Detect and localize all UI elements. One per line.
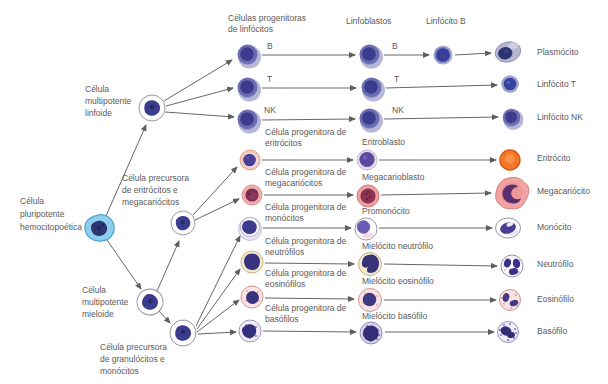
arrow	[166, 88, 233, 106]
label-promonocyte: Promonócito	[362, 206, 410, 217]
letter-b-blast: B	[392, 41, 398, 52]
label-line: linfoide	[85, 107, 131, 119]
arrow	[263, 331, 356, 332]
label-line: Célula	[85, 83, 131, 95]
arrow	[262, 119, 355, 120]
header-line: Células progenitoras	[228, 13, 306, 24]
lymphoblast-b-cell	[360, 45, 384, 69]
col-header-lymphocyte-b: Linfócito B	[426, 16, 466, 27]
monocyte-cell	[496, 218, 521, 238]
arrow	[198, 332, 236, 334]
label-neutrophil-myelocyte: Mielócito neutrófilo	[362, 241, 433, 252]
row-arrows-progenitor-to-blast	[262, 55, 356, 332]
arrow	[265, 263, 354, 264]
lymphoblast-nk-cell	[360, 109, 384, 133]
arrow	[265, 298, 354, 299]
label-lymphocyte-nk: Linfócito NK	[537, 112, 583, 123]
label-lymphocyte-t: Linfócito T	[537, 79, 576, 90]
label-eosinophil-myelocyte: Mielócito eosinófilo	[362, 276, 434, 287]
label-line: Célula progenitora de	[265, 303, 346, 314]
promonocyte-cell	[355, 218, 377, 240]
arrow	[384, 117, 498, 119]
progenitor-cell-erythrocyte	[240, 150, 260, 170]
arrow	[381, 193, 491, 195]
label-multipotent-lymphoid: Célula multipotente linfoide	[85, 83, 131, 119]
label-basophil-myelocyte: Mielócito basófilo	[362, 311, 427, 322]
header-line: de linfócitos	[228, 24, 306, 35]
arrow	[165, 112, 234, 117]
label-progenitor-basophils: Célula progenitora de basófilos	[265, 303, 346, 325]
arrow	[197, 300, 239, 332]
cell-precursor-granulo-mono	[168, 318, 198, 348]
stem-cell-pluripotent	[85, 215, 114, 242]
label-monocyte: Monócito	[537, 222, 572, 233]
megakaryocyte-cell	[496, 177, 529, 208]
label-progenitor-megakaryocytes: Célula progenitora de megacariócitos	[265, 167, 346, 189]
arrow	[157, 241, 179, 291]
label-precursor-erythro-mega: Célula precursora de eritrócitos e megac…	[122, 172, 189, 208]
label-progenitor-neutrophils: Célula progenitora de neutrófilos	[265, 236, 346, 258]
lymphocyte-b-cell	[434, 46, 453, 65]
label-line: Célula precursora	[122, 172, 189, 184]
basophil-cell	[498, 322, 519, 343]
arrow	[384, 264, 497, 266]
label-line: basófilos	[265, 314, 346, 325]
label-megakaryocyte: Megacariócito	[537, 186, 590, 197]
letter-t-progenitor: T	[267, 74, 272, 85]
erythroblast-cell	[357, 150, 377, 170]
eosinophil-myelocyte-cell	[359, 289, 382, 312]
label-erythroblast: Eritroblasto	[362, 137, 405, 148]
arrow	[107, 240, 141, 289]
progenitor-cell-monocyte	[239, 218, 262, 241]
label-line: megacariócitos	[122, 196, 189, 208]
basophil-myelocyte-cell	[360, 322, 382, 344]
erythrocyte-cell	[500, 150, 520, 170]
label-line: Célula	[20, 195, 82, 208]
col-header-lymphoblasts: Linfoblastos	[346, 16, 391, 27]
diagram-graphics	[0, 0, 608, 384]
label-line: pluripotente	[20, 208, 82, 221]
arrow	[164, 60, 232, 101]
label-pluripotent-cell: Célula pluripotente hemocitopoética	[20, 195, 82, 234]
label-line: eosinófilos	[265, 279, 346, 290]
label-line: Célula	[82, 284, 128, 296]
label-progenitor-monocytes: Célula progenitora de monócitos	[265, 202, 346, 224]
progenitor-cell-megakaryocyte	[242, 185, 262, 205]
label-line: Célula progenitora de	[265, 202, 346, 213]
label-line: mieloide	[82, 308, 128, 320]
lymphocyte-nk-cell	[503, 109, 524, 130]
label-line: Célula progenitora de	[265, 268, 346, 279]
progenitor-cell-neutrophil	[241, 251, 263, 273]
arrow	[193, 167, 237, 215]
progenitor-cell-eosinophil	[241, 286, 263, 308]
cell-multipotent-lymphoid	[139, 95, 165, 121]
progenitor-cell-b	[238, 45, 262, 69]
label-progenitor-erythrocytes: Célula progenitora de eritrócitos	[265, 127, 346, 149]
label-line: Célula progenitora de	[265, 167, 346, 178]
letter-nk-progenitor: NK	[264, 105, 276, 116]
arrow	[196, 236, 240, 326]
label-line: de eritrócitos e	[122, 184, 189, 196]
label-megakaryoblast: Megacarioblasto	[362, 172, 424, 183]
row-arrows-blast-to-final	[379, 53, 498, 332]
eosinophil-cell	[500, 290, 521, 311]
label-line: multipotente	[82, 296, 128, 308]
label-erythrocyte: Eritrócito	[537, 153, 571, 164]
label-plasmocyte: Plasmócito	[537, 47, 579, 58]
label-progenitor-eosinophils: Célula progenitora de eosinófilos	[265, 268, 346, 290]
lymphoblast-t-cell	[362, 78, 386, 102]
label-eosinophil: Eosinófilo	[537, 294, 574, 305]
lymphocyte-t-cell	[501, 75, 519, 93]
label-neutrophil: Neutrófilo	[537, 259, 573, 270]
label-basophil: Basófilo	[537, 326, 567, 337]
label-line: multipotente	[85, 95, 131, 107]
label-multipotent-myeloid: Célula multipotente mieloide	[82, 284, 128, 320]
label-line: neutrófilos	[265, 247, 346, 258]
letter-nk-blast: NK	[392, 105, 404, 116]
label-line: megacariócitos	[265, 178, 346, 189]
arrow	[386, 85, 497, 88]
arrow	[197, 269, 240, 329]
plasmocyte-cell	[493, 39, 523, 65]
label-line: Célula progenitora de	[265, 127, 346, 138]
progenitor-cell-basophil	[239, 320, 261, 342]
